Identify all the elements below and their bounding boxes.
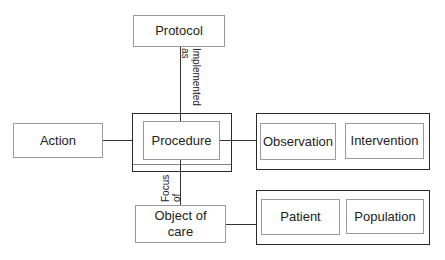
node-action-label: Action	[40, 133, 76, 149]
node-procedure: Procedure	[143, 121, 220, 160]
node-intervention: Intervention	[345, 123, 424, 159]
edge-label-implemented-as: Implemented as	[180, 48, 202, 106]
edge-label-of: of	[171, 175, 182, 202]
edge-label-focus-of: Focus of	[160, 175, 182, 202]
node-observation-label: Observation	[263, 134, 333, 150]
procedure-group-divider	[133, 164, 231, 165]
node-patient-label: Patient	[280, 209, 320, 225]
node-observation: Observation	[260, 123, 336, 160]
node-patient: Patient	[261, 199, 340, 235]
node-protocol-label: Protocol	[155, 23, 203, 39]
node-object-of-care: Object of care	[135, 205, 226, 243]
edge-objectofcare-subtypes	[226, 224, 256, 225]
node-population: Population	[346, 199, 424, 234]
node-procedure-label: Procedure	[152, 133, 212, 149]
edge-label-focus: Focus	[160, 175, 171, 202]
edge-label-as: as	[180, 48, 191, 106]
node-object-of-care-line2: care	[168, 224, 193, 240]
node-population-label: Population	[354, 209, 415, 225]
node-protocol: Protocol	[133, 15, 225, 47]
node-intervention-label: Intervention	[351, 133, 419, 149]
node-action: Action	[13, 123, 103, 158]
edge-action-procedure	[103, 140, 132, 141]
edge-label-implemented: Implemented	[191, 48, 202, 106]
node-object-of-care-line1: Object of	[154, 208, 206, 224]
